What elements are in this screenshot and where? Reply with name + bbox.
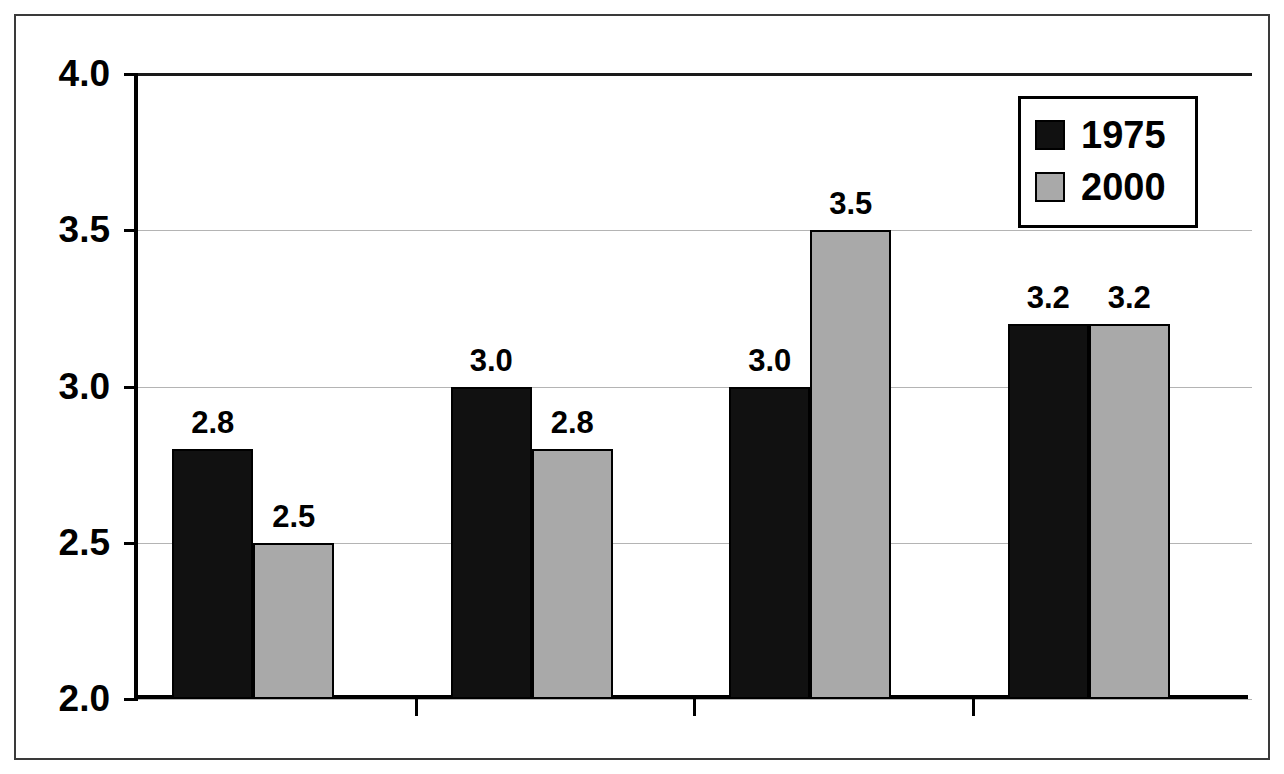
y-axis-label: 4.0 <box>20 55 110 92</box>
legend-label-2000: 2000 <box>1081 168 1166 206</box>
x-axis-tick <box>415 699 418 716</box>
bar-value-label: 3.2 <box>1075 280 1184 316</box>
bar-value-label: 3.0 <box>437 343 546 379</box>
y-axis-tick <box>124 542 138 545</box>
bar <box>729 387 810 700</box>
y-axis-tick <box>124 386 138 389</box>
x-axis-tick <box>693 699 696 716</box>
bar-chart-figure: 2.02.53.03.54.0 2.82.53.02.83.03.53.23.2… <box>0 0 1284 774</box>
bar-value-label: 3.5 <box>796 186 905 222</box>
y-axis-tick <box>124 73 138 76</box>
bar <box>1089 324 1170 699</box>
bar-value-label: 3.0 <box>715 343 824 379</box>
legend-item-1975: 1975 <box>1035 109 1183 161</box>
black-square-icon <box>1035 120 1065 150</box>
bar-value-label: 2.8 <box>518 405 627 441</box>
bar-value-label: 2.8 <box>158 405 267 441</box>
y-axis-tick <box>124 229 138 232</box>
bar <box>253 543 334 699</box>
y-axis-tick <box>124 698 138 701</box>
gridline <box>138 73 1252 76</box>
y-axis-label: 2.0 <box>20 680 110 717</box>
legend-label-1975: 1975 <box>1081 116 1166 154</box>
figure-frame: 2.02.53.03.54.0 2.82.53.02.83.03.53.23.2… <box>14 14 1270 760</box>
bar <box>172 449 253 699</box>
bar <box>532 449 613 699</box>
y-axis-label: 3.5 <box>20 211 110 248</box>
y-axis-label: 3.0 <box>20 368 110 405</box>
gridline <box>138 230 1252 231</box>
chart-legend: 1975 2000 <box>1018 96 1198 228</box>
bar <box>1008 324 1089 699</box>
y-axis-label: 2.5 <box>20 524 110 561</box>
bar-value-label: 2.5 <box>239 499 348 535</box>
legend-item-2000: 2000 <box>1035 161 1183 213</box>
x-axis-tick <box>972 699 975 716</box>
gray-square-icon <box>1035 172 1065 202</box>
bar <box>810 230 891 699</box>
